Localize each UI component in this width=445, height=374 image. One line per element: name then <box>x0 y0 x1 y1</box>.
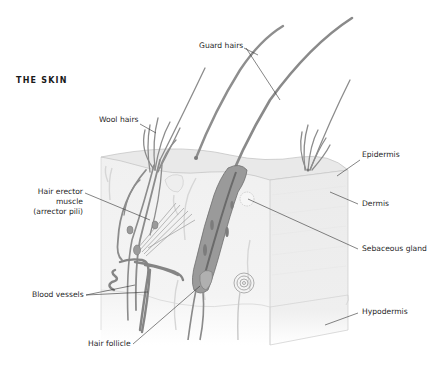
dermis-side-face <box>270 170 348 345</box>
label-blood-vessels: Blood vessels <box>32 290 84 300</box>
label-hair-erector-line3: (arrector pili) <box>20 207 83 217</box>
label-wool-hairs: Wool hairs <box>99 115 139 125</box>
diagram-title: THE SKIN <box>16 76 68 85</box>
label-hair-erector: Hair erector muscle (arrector pili) <box>20 187 83 217</box>
label-guard-hairs: Guard hairs <box>199 41 243 51</box>
label-hair-erector-line1: Hair erector <box>20 187 83 197</box>
label-sebaceous-gland: Sebaceous gland <box>362 244 427 254</box>
label-dermis: Dermis <box>362 199 389 209</box>
label-epidermis: Epidermis <box>362 150 400 160</box>
sebaceous-gland <box>240 192 254 206</box>
label-hair-erector-line2: muscle <box>20 197 83 207</box>
label-hair-follicle: Hair follicle <box>88 339 131 349</box>
label-hypodermis: Hypodermis <box>362 307 408 317</box>
